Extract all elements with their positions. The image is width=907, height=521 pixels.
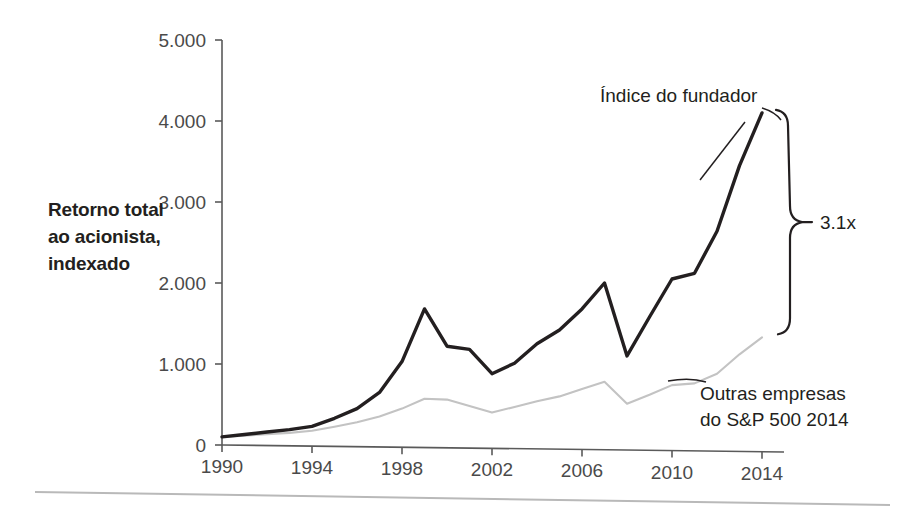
y-tick-label: 0 (195, 435, 206, 456)
x-tick-label: 2006 (561, 460, 603, 481)
x-tick-label: 1998 (381, 458, 423, 479)
x-tick-label: 2014 (741, 463, 784, 484)
x-tick-label: 2010 (651, 462, 693, 483)
multiplier-annotation: 3.1x (820, 212, 856, 233)
multiplier-brace (776, 110, 802, 334)
footer-divider-rule (35, 492, 890, 505)
y-tick-label: 4.000 (158, 111, 206, 132)
y-tick-label: 1.000 (158, 354, 206, 375)
chart-figure: Retorno total ao acionista, indexado 01.… (0, 0, 907, 521)
x-tick-label: 1990 (201, 456, 243, 477)
y-axis-title-line-1: Retorno total (48, 196, 208, 223)
founder-index-annotation: Índice do fundador (600, 85, 758, 106)
y-tick-label: 5.000 (158, 30, 206, 51)
sp500-annotation-line-2: do S&P 500 2014 (700, 409, 849, 430)
x-tick-label: 1994 (291, 457, 334, 478)
y-axis-title: Retorno total ao acionista, indexado (48, 196, 208, 277)
x-axis-tick-labels: 1990199419982002200620102014 (201, 456, 784, 484)
y-axis-tick-marks (215, 40, 222, 445)
y-axis-title-line-2: ao acionista, (48, 223, 208, 250)
series-line-founder (222, 113, 762, 437)
x-tick-label: 2002 (471, 459, 513, 480)
x-axis-line (222, 445, 784, 452)
series-line-sp500 (222, 337, 762, 437)
sp500-annotation-line-1: Outras empresas (700, 383, 846, 404)
y-axis-title-line-3: indexado (48, 250, 208, 277)
